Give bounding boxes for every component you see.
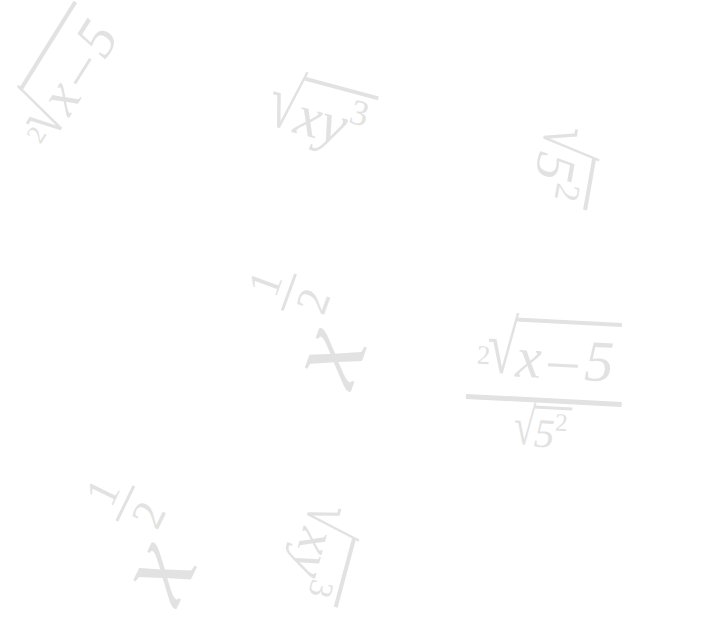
watermark-canvas: 2√x–5 √xy3 √52 x12 x12 √xy3 2√x–5 [0,0,717,628]
radicand-operand: 5 [583,328,615,394]
expression-bottom-middle-radical: √xy3 [274,496,361,607]
radicand: 52 [531,406,572,458]
expression-center-power: x12 [232,265,398,397]
radical-group: √xy3 [259,72,378,165]
minus-operator: – [540,326,586,393]
radicand-base: 5 [533,411,556,457]
radicand: 52 [522,147,596,211]
radical-group: 2√x–5 [0,2,133,160]
radicand: x–5 [512,318,621,394]
expression-lower-left-power: x12 [63,473,232,616]
expression-top-left-radical: 2√x–5 [0,2,133,161]
radical-group: √xy3 [274,496,361,607]
expression-top-right-radical: √52 [519,120,599,210]
expression-top-middle-radical: √xy3 [259,71,379,165]
radical-group: √52 [512,407,573,460]
radical-group: √52 [519,120,597,210]
radicand-variable: x [514,324,543,390]
fraction-numerator: 2√x–5 [466,318,626,401]
expression-right-fraction: 2√x–5 √52 [463,318,626,462]
radicand: xy3 [276,522,356,608]
radicand: xy3 [287,76,379,162]
fraction-denominator: √52 [463,400,622,463]
radicand-exponent: 2 [554,409,568,437]
radical-group: 2√x–5 [471,319,621,397]
fraction-group: 2√x–5 √52 [463,318,626,462]
